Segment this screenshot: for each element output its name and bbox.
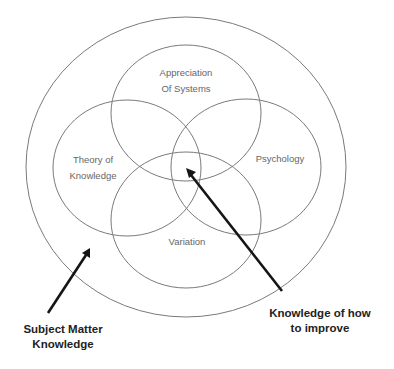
label-psychology: Psychology	[256, 153, 305, 164]
label-subject-matter: Subject Matter	[23, 323, 103, 335]
label-to-improve: to improve	[291, 322, 350, 334]
circle-psychology	[171, 99, 321, 235]
label-theory-of: Theory of	[73, 154, 113, 165]
arrow-shaft-outer	[48, 255, 86, 313]
circle-appreciation-of-systems	[111, 45, 261, 181]
circle-theory-of-knowledge	[53, 100, 201, 236]
label-knowledge-of-how: Knowledge of how	[269, 307, 371, 319]
venn-diagram: Appreciation Of Systems Theory of Knowle…	[0, 0, 394, 369]
label-variation: Variation	[169, 236, 206, 247]
arrow-shaft-center	[191, 175, 282, 291]
label-appreciation: Appreciation	[160, 67, 213, 78]
label-knowledge: Knowledge	[69, 170, 116, 181]
circle-variation	[111, 152, 261, 288]
label-subject-knowledge: Knowledge	[32, 338, 93, 350]
label-of-systems: Of Systems	[161, 83, 210, 94]
arrow-subject-matter-knowledge	[48, 248, 90, 313]
